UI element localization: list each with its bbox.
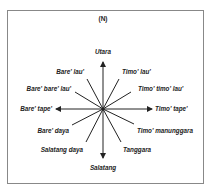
label-east-south-east: Timo' manunggara: [137, 127, 193, 135]
spoke-south-west: [86, 109, 103, 142]
label-south-west: Salatang daya: [41, 146, 84, 154]
spoke-south-east: [103, 109, 121, 142]
label-north: Utara: [95, 48, 112, 55]
label-north-east: Timo' lau': [122, 68, 151, 75]
label-south: Salatang: [90, 164, 116, 172]
center-point: [101, 107, 104, 110]
compass-diagram: (N) Utara Timo' lau' Timo' timo' lau' Ti…: [0, 0, 212, 191]
label-east-north-east: Timo' timo' lau': [138, 85, 184, 92]
label-west-north-west: Bare' bare' lau': [27, 85, 72, 92]
label-west-south-west: Bare' daya: [37, 127, 69, 135]
label-west: Bare' tape': [20, 105, 52, 113]
diagram-title: (N): [98, 15, 107, 23]
label-south-east: Tanggara: [123, 146, 152, 154]
label-east: Timo' tape': [155, 105, 188, 113]
label-north-west: Bare' lau': [56, 68, 84, 75]
